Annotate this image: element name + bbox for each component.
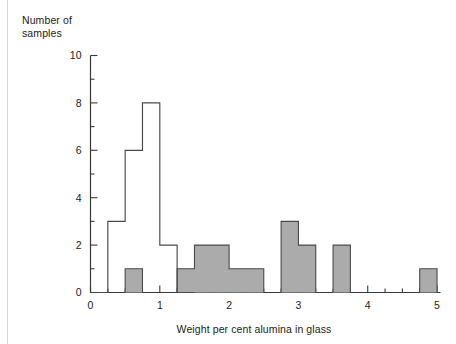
y-tick-label: 6 [76,144,82,156]
figure-root: Number of samples 0246810012345 Weight p… [0,0,456,344]
histogram-bar [281,221,316,292]
x-tick-label: 0 [88,299,94,311]
x-axis-label-wrap: Weight per cent alumina in glass [0,323,456,335]
x-tick-label: 2 [226,299,232,311]
histogram-bar [177,245,264,292]
y-tick-label: 0 [76,286,82,298]
x-tick-label: 1 [157,299,163,311]
x-tick-label: 5 [434,299,440,311]
y-tick-label: 8 [76,97,82,109]
y-tick-label: 2 [76,239,82,251]
histogram-bar [333,245,350,292]
x-tick-label: 4 [365,299,371,311]
y-tick-label: 4 [76,192,82,204]
histogram-bar [420,269,437,293]
x-tick-label: 3 [295,299,301,311]
histogram-bar [125,269,142,293]
outline-histogram-path [91,103,195,293]
grey-histogram-group [125,221,437,292]
y-tick-label: 10 [70,49,82,61]
histogram-plot: 0246810012345 [0,0,456,344]
x-axis-label: Weight per cent alumina in glass [177,323,332,335]
